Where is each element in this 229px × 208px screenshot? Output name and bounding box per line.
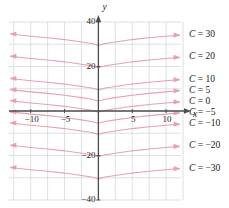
curve-label-30: C = 30 [189, 29, 215, 39]
y-tick-label-40: 40 [86, 16, 95, 26]
curve-label-neg5: C = −5 [189, 107, 216, 117]
x-tick-label--5: −5 [57, 114, 75, 124]
y-axis-label: y [102, 2, 106, 12]
y-tick-label-20: 20 [86, 61, 95, 71]
x-tick-label--10: −10 [23, 114, 41, 124]
curve-label-5: C = 5 [189, 85, 210, 95]
curve-label-neg20: C = −20 [189, 140, 220, 150]
curve-label-20: C = 20 [189, 51, 215, 61]
y-tick-label--20: −20 [81, 150, 95, 160]
curve-label-10: C = 10 [189, 74, 215, 84]
curve-label-0: C = 0 [189, 96, 210, 106]
x-tick-label-5: 5 [124, 114, 142, 124]
curve-label-neg10: C = −10 [189, 118, 220, 128]
figure-container: yx−10−55104020−20−40C = 30C = 20C = 10C … [0, 0, 229, 208]
y-tick-label--40: −40 [81, 194, 95, 204]
curve-label-neg30: C = −30 [189, 163, 220, 173]
x-tick-label-10: 10 [158, 114, 176, 124]
